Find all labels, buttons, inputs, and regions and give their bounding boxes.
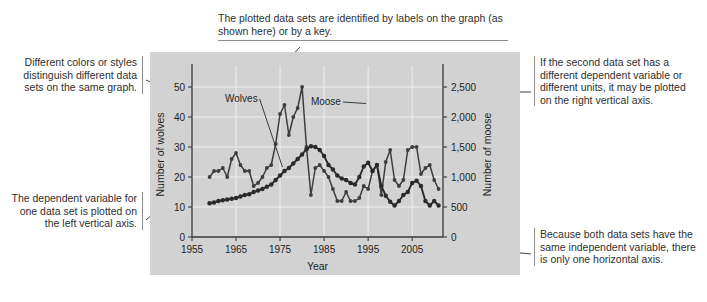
series-point <box>335 173 339 177</box>
series-point <box>291 161 295 165</box>
y-ticklabel-right: 1,000 <box>451 172 476 183</box>
series-point <box>322 169 326 173</box>
callout-right-top-text: If the second data set has a different d… <box>534 56 699 106</box>
series-point <box>353 199 357 203</box>
series-point <box>225 197 229 201</box>
x-axis-title: Year <box>307 260 329 272</box>
series-point <box>379 184 383 188</box>
x-ticklabel: 1965 <box>225 244 248 255</box>
series-point <box>212 200 216 204</box>
series-point <box>331 187 335 191</box>
series-point <box>265 185 269 189</box>
series-point <box>406 190 410 194</box>
series-point <box>362 184 366 188</box>
series-point <box>393 178 397 182</box>
series-point <box>269 163 273 167</box>
series-point <box>251 190 255 194</box>
series-point <box>296 106 300 110</box>
y-ticklabel-left: 40 <box>174 112 186 123</box>
series-label-moose-leader <box>343 102 366 104</box>
series-point <box>318 163 322 167</box>
series-point <box>313 166 317 170</box>
series-point <box>370 169 374 173</box>
y-ticklabel-right: 2,000 <box>451 112 476 123</box>
series-point <box>375 163 379 167</box>
series-point <box>335 199 339 203</box>
series-point <box>353 182 357 186</box>
series-point <box>247 192 251 196</box>
series-point <box>207 201 211 205</box>
callout-left-top-text: Different colors or styles distinguish d… <box>18 56 143 94</box>
series-point <box>344 178 348 182</box>
series-point <box>397 184 401 188</box>
y-ticklabel-left: 30 <box>174 142 186 153</box>
series-point <box>300 85 304 89</box>
series-point <box>340 199 344 203</box>
series-point <box>410 181 414 185</box>
y-ticklabel-right: 0 <box>451 232 457 243</box>
chart-panel: 0102030405005001,0001,5002,0002,50019551… <box>150 52 520 275</box>
series-point <box>340 176 344 180</box>
series-point <box>295 157 299 161</box>
series-point <box>225 175 229 179</box>
series-point <box>300 152 304 156</box>
series-point <box>313 145 317 149</box>
series-point <box>379 193 383 197</box>
series-point <box>261 175 265 179</box>
series-point <box>357 196 361 200</box>
series-point <box>252 184 256 188</box>
series-point <box>344 190 348 194</box>
series-point <box>327 175 331 179</box>
y-axis-title-right: Number of moose <box>481 113 493 197</box>
callout-left-top: Different colors or styles distinguish d… <box>18 56 143 94</box>
series-point <box>388 148 392 152</box>
callout-right-bottom-text: Because both data sets have the same ind… <box>534 228 702 266</box>
series-point <box>304 147 308 151</box>
series-point <box>406 148 410 152</box>
series-point <box>397 199 401 203</box>
y-ticklabel-left: 0 <box>179 232 185 243</box>
series-point <box>432 178 436 182</box>
series-point <box>309 144 313 148</box>
series-point <box>392 203 396 207</box>
y-ticklabel-left: 10 <box>174 202 186 213</box>
series-point <box>415 145 419 149</box>
y-ticklabel-right: 1,500 <box>451 142 476 153</box>
series-point <box>326 163 330 167</box>
series-label-wolves: Wolves <box>225 93 258 104</box>
series-point <box>331 167 335 171</box>
series-point <box>419 172 423 176</box>
series-point <box>216 199 220 203</box>
series-point <box>282 169 286 173</box>
series-point <box>432 199 436 203</box>
series-point <box>283 103 287 107</box>
series-point <box>437 187 441 191</box>
x-ticklabel: 1985 <box>313 244 336 255</box>
series-point <box>291 115 295 119</box>
series-point <box>348 181 352 185</box>
series-point <box>401 193 405 197</box>
x-ticklabel: 1975 <box>269 244 292 255</box>
dual-axis-line-chart: 0102030405005001,0001,5002,0002,50019551… <box>150 52 520 275</box>
callout-right-bottom: Because both data sets have the same ind… <box>534 228 702 266</box>
callout-right-top: If the second data set has a different d… <box>534 56 699 106</box>
series-point <box>217 169 221 173</box>
series-point <box>309 193 313 197</box>
series-point <box>247 169 251 173</box>
x-ticklabel: 1955 <box>181 244 204 255</box>
series-point <box>401 178 405 182</box>
series-point <box>243 169 247 173</box>
series-point <box>318 148 322 152</box>
series-point <box>238 194 242 198</box>
series-point <box>384 194 388 198</box>
series-point <box>234 196 238 200</box>
y-ticklabel-right: 2,500 <box>451 82 476 93</box>
series-point <box>260 187 264 191</box>
series-point <box>287 166 291 170</box>
series-point <box>208 175 212 179</box>
series-point <box>287 133 291 137</box>
series-point <box>273 178 277 182</box>
figure-container: The plotted data sets are identified by … <box>0 0 707 302</box>
series-point <box>414 179 418 183</box>
series-point <box>410 145 414 149</box>
